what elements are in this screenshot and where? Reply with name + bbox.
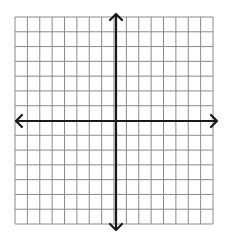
coordinate-plane bbox=[0, 0, 227, 242]
